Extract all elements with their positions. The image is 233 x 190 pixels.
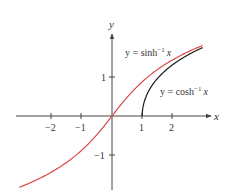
x-tick-label: 1 [139,122,144,133]
chart: x y −2 −1 1 2 1 −1 y = sinh−1x y = cosh−… [0,0,233,190]
y-tick-label: −1 [94,150,105,161]
cosh-annotation: y = cosh−1x [160,85,208,97]
y-axis-label: y [108,18,114,30]
x-axis-label: x [213,110,219,122]
x-tick-label: −1 [75,122,86,133]
sinh-annotation: y = sinh−1x [125,46,172,58]
x-tick-label: −2 [45,122,56,133]
y-tick-label: 1 [101,72,106,83]
x-tick-label: 2 [169,122,174,133]
